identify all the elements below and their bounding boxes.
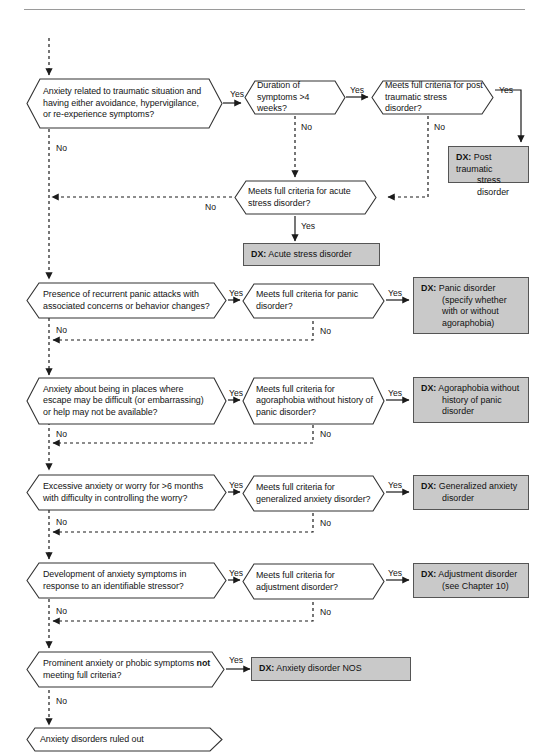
dx-box-nos: DX: Anxiety disorder NOS xyxy=(251,657,411,681)
decision-ptsd-trauma[interactable]: Anxiety related to traumatic situation a… xyxy=(26,78,223,129)
dx-prefix: DX: xyxy=(456,152,471,162)
dx-prefix: DX: xyxy=(421,569,436,579)
dx-line-1: Generalized anxiety xyxy=(439,481,517,491)
dx-prefix: DX: xyxy=(251,249,266,259)
dx-box-acute: DX: Acute stress disorder xyxy=(243,243,380,266)
decision-label: Meets full criteria for panic disorder? xyxy=(242,289,385,312)
decision-ptsd-criteria[interactable]: Meets full criteria for post traumatic s… xyxy=(371,80,494,115)
dx-line-1: Panic disorder xyxy=(439,283,496,293)
edge-label-yes-agora-criteria: Yes xyxy=(388,388,402,398)
top-rule xyxy=(24,9,525,10)
edge-label-no-adjust-criteria: No xyxy=(320,607,331,617)
terminal-label: Anxiety disorders ruled out xyxy=(26,734,158,746)
edge-label-yes-ptsd-trauma: Yes xyxy=(230,89,244,99)
edge-label-yes-nos: Yes xyxy=(229,655,243,665)
dx-box-adjustment: DX: Adjustment disorder (see Chapter 10) xyxy=(413,563,529,598)
decision-label: Duration of symptoms >4 weeks? xyxy=(244,80,346,115)
decision-gad-criteria[interactable]: Meets full criteria for generalized anxi… xyxy=(242,475,385,512)
dx-prefix: DX: xyxy=(421,383,436,393)
decision-label: Excessive anxiety or worry for >6 months… xyxy=(26,481,227,504)
decision-label: Meets full criteria for agoraphobia with… xyxy=(242,384,385,419)
edge-label-no-panic-criteria: No xyxy=(320,326,331,336)
dx-line-1: Adjustment disorder xyxy=(438,569,517,579)
edge-label-no-agora-presence: No xyxy=(56,429,67,439)
dx-line-2: (specify whether xyxy=(421,295,521,307)
edge-label-yes-duration: Yes xyxy=(350,85,364,95)
dx-line-1: Anxiety disorder NOS xyxy=(276,663,361,673)
edge-label-yes-gad-presence: Yes xyxy=(229,480,243,490)
edge-label-no-panic-presence: No xyxy=(56,325,67,335)
dx-line-2: (see Chapter 10) xyxy=(421,581,521,593)
decision-agoraphobia-presence[interactable]: Anxiety about being in places where esca… xyxy=(26,377,227,425)
decision-label: Meets full criteria for acute stress dis… xyxy=(234,186,377,209)
dx-line-1: Agoraphobia without xyxy=(438,383,519,393)
nos-text-a: Prominent anxiety or phobic symptoms xyxy=(43,658,197,668)
edge-label-yes-ptsd-criteria: Yes xyxy=(499,85,513,95)
decision-label: Anxiety about being in places where esca… xyxy=(26,384,227,419)
edge-label-yes-acute-criteria: Yes xyxy=(301,221,315,231)
decision-acute-criteria[interactable]: Meets full criteria for acute stress dis… xyxy=(234,180,377,215)
decision-nos-presence[interactable]: Prominent anxiety or phobic symptoms not… xyxy=(26,651,225,688)
decision-panic-presence[interactable]: Presence of recurrent panic attacks with… xyxy=(26,282,227,319)
decision-label: Meets full criteria for post traumatic s… xyxy=(371,80,494,115)
decision-label: Development of anxiety symptoms in respo… xyxy=(26,569,227,592)
decision-label: Meets full criteria for generalized anxi… xyxy=(242,482,385,505)
edge-label-yes-adjust-criteria: Yes xyxy=(388,568,402,578)
decision-gad-presence[interactable]: Excessive anxiety or worry for >6 months… xyxy=(26,474,227,511)
dx-prefix: DX: xyxy=(421,283,436,293)
decision-label: Anxiety related to traumatic situation a… xyxy=(26,86,223,121)
dx-prefix: DX: xyxy=(421,481,436,491)
dx-line-2: disorder xyxy=(421,493,521,505)
edge-label-yes-adjust-presence: Yes xyxy=(229,568,243,578)
dx-line-3: disorder xyxy=(421,406,521,418)
edge-label-yes-panic-criteria: Yes xyxy=(388,288,402,298)
edge-label-yes-agora-presence: Yes xyxy=(229,388,243,398)
dx-prefix: DX: xyxy=(259,663,274,673)
decision-adjustment-presence[interactable]: Development of anxiety symptoms in respo… xyxy=(26,562,227,599)
decision-label: Prominent anxiety or phobic symptoms not… xyxy=(26,658,225,681)
decision-label: Presence of recurrent panic attacks with… xyxy=(26,289,227,312)
terminal-ruled-out[interactable]: Anxiety disorders ruled out xyxy=(26,727,223,752)
edge-label-yes-gad-criteria: Yes xyxy=(388,480,402,490)
dx-line-2: stress disorder xyxy=(456,175,521,198)
edge-label-no-ptsd-trauma: No xyxy=(56,143,67,153)
dx-line-3: with or without xyxy=(421,306,521,318)
edge-label-no-adjust-presence: No xyxy=(56,606,67,616)
dx-box-ptsd: DX: Post traumatic stress disorder xyxy=(448,146,529,183)
decision-adjustment-criteria[interactable]: Meets full criteria for adjustment disor… xyxy=(242,563,385,600)
dx-box-agoraphobia: DX: Agoraphobia without history of panic… xyxy=(413,377,529,423)
edge-label-no-ptsd-criteria: No xyxy=(434,122,445,132)
flowchart-canvas: Anxiety related to traumatic situation a… xyxy=(0,0,548,754)
nos-text-c: meeting full criteria? xyxy=(43,670,121,680)
decision-panic-criteria[interactable]: Meets full criteria for panic disorder? xyxy=(242,283,385,319)
edge-label-no-gad-presence: No xyxy=(56,517,67,527)
edge-label-no-gad-criteria: No xyxy=(320,518,331,528)
dx-line-1: Acute stress disorder xyxy=(268,249,351,259)
decision-duration[interactable]: Duration of symptoms >4 weeks? xyxy=(244,80,346,115)
edge-label-no-nos: No xyxy=(56,696,67,706)
dx-line-2: history of panic xyxy=(421,395,521,407)
edge-label-yes-panic-presence: Yes xyxy=(229,288,243,298)
edge-label-no-acute-criteria: No xyxy=(205,202,216,212)
dx-box-panic: DX: Panic disorder (specify whether with… xyxy=(413,277,529,334)
dx-line-4: agoraphobia) xyxy=(421,318,521,330)
nos-text-not: not xyxy=(197,658,211,668)
decision-agoraphobia-criteria[interactable]: Meets full criteria for agoraphobia with… xyxy=(242,377,385,425)
decision-label: Meets full criteria for adjustment disor… xyxy=(242,570,385,593)
edge-label-no-agora-criteria: No xyxy=(320,429,331,439)
dx-box-gad: DX: Generalized anxiety disorder xyxy=(413,475,529,510)
edge-label-no-duration: No xyxy=(301,122,312,132)
